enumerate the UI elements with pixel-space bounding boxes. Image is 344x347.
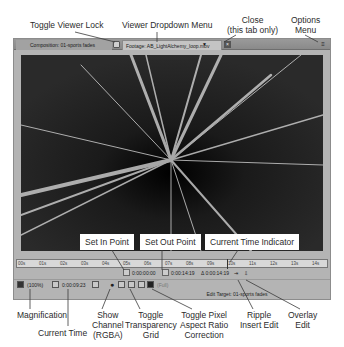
current-time-field[interactable]: 0:00:09:23 bbox=[62, 281, 86, 289]
duration-time: Δ 0:00:14:19 bbox=[201, 268, 229, 278]
grid-guides-icon[interactable] bbox=[52, 281, 59, 288]
callout-show-channel: Show Channel (RGBA) bbox=[92, 310, 124, 340]
ruler-tick: 13s bbox=[291, 260, 298, 268]
viewer-controls-bar: (100%) 0:00:09:23 ● (Full) bbox=[14, 279, 330, 289]
region-of-interest-icon[interactable] bbox=[138, 281, 145, 288]
callout-viewer-dropdown-menu: Viewer Dropdown Menu bbox=[122, 20, 213, 30]
tab-bar: Composition: 01-sports fades Footage: AB… bbox=[14, 39, 330, 50]
out-point-time[interactable]: 0:00:14:19 bbox=[171, 268, 195, 278]
close-tab-icon[interactable]: × bbox=[224, 41, 231, 48]
callout-set-out-point: Set Out Point bbox=[140, 234, 201, 250]
callout-toggle-viewer-lock: Toggle Viewer Lock bbox=[30, 20, 104, 30]
ruler-tick: 08s bbox=[186, 260, 193, 268]
pixel-aspect-ratio-icon[interactable] bbox=[147, 281, 154, 288]
callout-toggle-pixel-line3: Correction bbox=[180, 330, 228, 340]
callout-toggle-transparency-line3: Grid bbox=[125, 330, 177, 340]
in-out-bar: 0:00:00:00 0:00:14:19 Δ 0:00:14:19 ⇥ ⇩ bbox=[14, 268, 330, 278]
magnification-dropdown[interactable]: (100%) bbox=[27, 281, 43, 289]
callout-toggle-transparency-line1: Toggle bbox=[125, 310, 177, 320]
ruler-tick: 11s bbox=[249, 260, 256, 268]
viewer-dropdown-icon[interactable]: ▼ bbox=[202, 40, 207, 49]
ruler-tick: 12s bbox=[270, 260, 277, 268]
time-ruler[interactable]: 00s 01s 02s 03s 04s 05s 06s 07s 08s 09s … bbox=[16, 259, 328, 268]
callout-show-channel-line1: Show bbox=[92, 310, 124, 320]
ruler-tick: 03s bbox=[81, 260, 88, 268]
ruler-tick: 02s bbox=[60, 260, 67, 268]
ruler-tick: 10s bbox=[228, 260, 235, 268]
callout-toggle-transparency-line2: Transparency bbox=[125, 320, 177, 330]
callout-current-time-indicator: Current Time Indicator bbox=[205, 234, 299, 250]
callout-show-channel-line2: Channel bbox=[92, 320, 124, 330]
ruler-tick: 01s bbox=[39, 260, 46, 268]
callout-toggle-pixel-aspect: Toggle Pixel Aspect Ratio Correction bbox=[180, 310, 228, 340]
always-preview-icon[interactable] bbox=[17, 281, 24, 288]
show-channel-icon[interactable]: ● bbox=[110, 281, 114, 289]
callout-ripple-line1: Ripple bbox=[240, 310, 278, 320]
ruler-tick: 14s bbox=[312, 260, 319, 268]
tab-footage[interactable]: Footage: AB_LightAlchemy_loop.mov bbox=[122, 40, 222, 50]
callout-magnification: Magnification bbox=[17, 310, 67, 320]
callout-overlay-line2: Edit bbox=[288, 320, 317, 330]
ruler-tick: 09s bbox=[207, 260, 214, 268]
light-streaks-image bbox=[21, 55, 323, 251]
ruler-tick: 07s bbox=[165, 260, 172, 268]
ripple-insert-edit-button[interactable]: ⇥ bbox=[234, 268, 238, 278]
callout-set-in-point: Set In Point bbox=[80, 234, 134, 250]
callout-options-line2: Menu bbox=[291, 25, 320, 35]
callout-toggle-pixel-line1: Toggle Pixel bbox=[180, 310, 228, 320]
options-menu-icon[interactable]: ≡ bbox=[319, 41, 327, 48]
callout-overlay-edit: Overlay Edit bbox=[288, 310, 317, 330]
set-out-point-button[interactable] bbox=[162, 269, 169, 276]
viewer-lock-icon[interactable] bbox=[113, 41, 120, 48]
ruler-tick: 04s bbox=[102, 260, 109, 268]
callout-overlay-line1: Overlay bbox=[288, 310, 317, 320]
callout-current-time: Current Time bbox=[38, 328, 87, 338]
callout-ripple-line2: Insert Edit bbox=[240, 320, 278, 330]
transparency-grid-icon[interactable] bbox=[118, 281, 125, 288]
edit-target-label: Edit Target: 01-sports fades bbox=[14, 290, 330, 299]
tab-composition[interactable]: Composition: 01-sports fades bbox=[16, 40, 112, 50]
ruler-tick: 00s bbox=[18, 260, 25, 268]
resolution-hint: (Full) bbox=[157, 281, 168, 289]
callout-show-channel-line3: (RGBA) bbox=[92, 330, 124, 340]
overlay-edit-button[interactable]: ⇩ bbox=[244, 268, 248, 278]
callout-toggle-pixel-line2: Aspect Ratio bbox=[180, 320, 228, 330]
in-point-time[interactable]: 0:00:00:00 bbox=[132, 268, 156, 278]
callout-options-menu: Options Menu bbox=[291, 15, 320, 35]
callout-close-line1: Close bbox=[227, 15, 278, 25]
transparency-toggle-icon[interactable] bbox=[128, 281, 135, 288]
callout-options-line1: Options bbox=[291, 15, 320, 25]
callout-close: Close (this tab only) bbox=[227, 15, 278, 35]
callout-toggle-transparency: Toggle Transparency Grid bbox=[125, 310, 177, 340]
set-in-point-button[interactable] bbox=[123, 269, 130, 276]
viewer-panel: Composition: 01-sports fades Footage: AB… bbox=[13, 38, 331, 300]
callout-ripple-insert-edit: Ripple Insert Edit bbox=[240, 310, 278, 330]
footage-viewer[interactable] bbox=[21, 55, 323, 251]
callout-close-line2: (this tab only) bbox=[227, 25, 278, 35]
snapshot-icon[interactable] bbox=[92, 281, 99, 288]
ruler-tick: 06s bbox=[144, 260, 151, 268]
ruler-tick: 05s bbox=[123, 260, 130, 268]
